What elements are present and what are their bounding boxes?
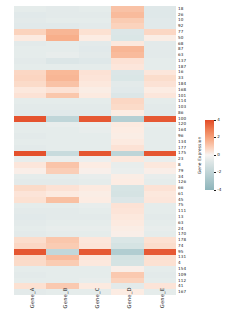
colorbar-tick-value: 0 [217,153,220,157]
colorbar-ticks: 420-2-4 [214,120,234,190]
colorbar-legend: Gene Expression 420-2-4 [196,118,234,192]
column-tick-label: Gene_B [63,288,68,309]
colorbar-tick-value: -4 [217,188,221,192]
colorbar-tick-value: -2 [217,170,221,174]
heatmap-grid[interactable] [14,6,176,295]
column-tick-slot: Gene_E [144,297,176,336]
row-tick-label: 167 [178,289,200,295]
colorbar-tick-mark [214,155,216,156]
column-tick-label: Gene_C [95,288,100,309]
colorbar-tick-value: 2 [217,135,220,139]
column-tick-label: Gene_A [30,288,35,309]
column-tick-slot: Gene_A [14,297,46,336]
colorbar-title-text: Gene Expression [198,136,203,174]
column-tick-labels: Gene_AGene_BGene_CGene_DGene_E [14,297,176,336]
column-tick-slot: Gene_D [111,297,143,336]
colorbar-title: Gene Expression [196,118,204,192]
colorbar-tick-mark [214,190,216,191]
column-tick-label: Gene_E [160,288,165,308]
column-tick-slot: Gene_B [46,297,78,336]
colorbar-tick-mark [214,137,216,138]
column-tick-slot: Gene_C [79,297,111,336]
colorbar-tick-mark [214,172,216,173]
column-tick-label: Gene_D [127,287,132,308]
colorbar-tick-value: 4 [217,118,220,122]
colorbar-gradient [205,120,214,190]
heatmap-figure: 1826109277506887631371871633184168101114… [0,0,234,336]
colorbar-tick-mark [214,120,216,121]
